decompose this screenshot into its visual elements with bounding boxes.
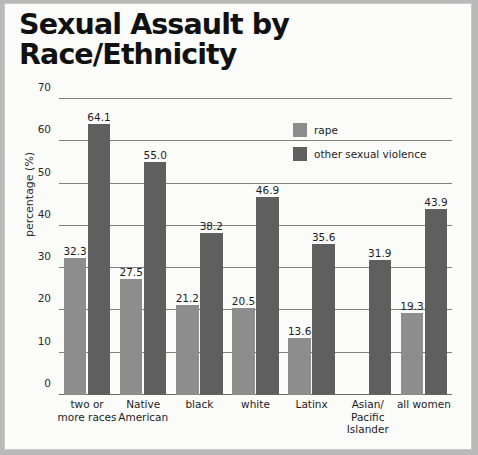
x-axis-labels: two ormore racesNativeAmericanblackwhite… <box>59 398 452 450</box>
x-axis-label-line: all women <box>390 398 458 411</box>
value-label-osv-1: 55.0 <box>137 149 174 161</box>
legend-label-rape: rape <box>314 124 338 136</box>
value-label-osv-0: 64.1 <box>81 111 118 123</box>
y-tick-label-10: 10 <box>11 335 51 347</box>
y-tick-label-50: 50 <box>11 166 51 178</box>
y-tick-label-40: 40 <box>11 208 51 220</box>
bar-rape-4 <box>288 338 311 396</box>
y-tick-label-70: 70 <box>11 81 51 93</box>
value-label-osv-3: 46.9 <box>249 184 286 196</box>
value-label-osv-5: 31.9 <box>362 247 399 259</box>
title-line-2: Race/Ethnicity <box>19 40 449 70</box>
bar-osv-0 <box>88 124 111 395</box>
legend-item-rape: rape <box>293 123 453 137</box>
value-label-osv-4: 35.6 <box>305 231 342 243</box>
x-axis-label-6: all women <box>390 398 458 411</box>
page-title: Sexual Assault by Race/Ethnicity <box>19 10 449 70</box>
legend-label-other-sexual-violence: other sexual violence <box>314 148 426 160</box>
bar-osv-1 <box>144 162 167 395</box>
legend-item-other-sexual-violence: other sexual violence <box>293 147 453 161</box>
bar-rape-2 <box>176 305 199 395</box>
bar-osv-3 <box>256 197 279 395</box>
x-axis-label-line: American <box>109 411 177 424</box>
bar-rape-0 <box>64 258 87 395</box>
legend-swatch-other-sexual-violence <box>293 147 307 161</box>
title-line-1: Sexual Assault by <box>19 10 449 40</box>
value-label-osv-6: 43.9 <box>418 196 455 208</box>
chart-legend: rape other sexual violence <box>293 123 453 171</box>
x-axis-label-line: Pacific <box>334 411 402 424</box>
bar-osv-5 <box>369 260 392 395</box>
x-axis-label-line: Islander <box>334 423 402 436</box>
y-tick-label-30: 30 <box>11 250 51 262</box>
chart-page: Sexual Assault by Race/Ethnicity percent… <box>5 4 471 449</box>
bar-osv-2 <box>200 233 223 395</box>
bar-osv-6 <box>425 209 448 395</box>
legend-swatch-rape <box>293 123 307 137</box>
value-label-osv-2: 38.2 <box>193 220 230 232</box>
y-tick-label-0: 0 <box>11 377 51 389</box>
bar-rape-6 <box>401 313 424 395</box>
y-tick-label-60: 60 <box>11 123 51 135</box>
bar-rape-3 <box>232 308 255 395</box>
bar-rape-1 <box>120 279 143 395</box>
y-tick-label-20: 20 <box>11 292 51 304</box>
bar-osv-4 <box>312 244 335 395</box>
